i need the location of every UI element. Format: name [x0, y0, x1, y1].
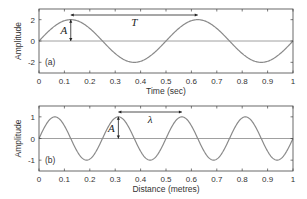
- bottom-x-axis-label: Distance (metres): [132, 184, 199, 194]
- top-amplitude-symbol: A: [59, 24, 67, 36]
- x-tick-label: 1: [291, 77, 296, 86]
- x-tick-label: 0.5: [160, 175, 172, 184]
- arrowhead-icon: [118, 110, 121, 113]
- arrowhead-icon: [195, 13, 198, 16]
- y-tick-label: 2: [31, 16, 36, 25]
- x-tick-label: 0.1: [59, 77, 71, 86]
- arrowhead-icon: [71, 13, 74, 16]
- top-x-axis-label: Time (sec): [146, 86, 186, 96]
- x-tick-label: 0.3: [110, 77, 122, 86]
- x-tick-label: 0.8: [237, 175, 249, 184]
- bottom-y-axis-label: Amplitude: [13, 119, 23, 157]
- x-tick-label: 0.7: [211, 77, 223, 86]
- x-tick-label: 0.6: [186, 77, 198, 86]
- arrowhead-icon: [179, 110, 182, 113]
- y-tick-label: 0: [31, 135, 36, 144]
- x-tick-label: 0: [37, 175, 42, 184]
- x-tick-label: 0.2: [84, 77, 96, 86]
- x-tick-label: 0.3: [110, 175, 122, 184]
- x-tick-label: 0.2: [84, 175, 96, 184]
- top-panel-label: (a): [45, 57, 56, 67]
- x-tick-label: 0.4: [135, 77, 147, 86]
- x-tick-label: 0: [37, 77, 42, 86]
- x-tick-label: 0.9: [262, 175, 274, 184]
- x-tick-label: 0.1: [59, 175, 71, 184]
- x-tick-label: 0.4: [135, 175, 147, 184]
- x-tick-label: 0.6: [186, 175, 198, 184]
- y-tick-label: -2: [28, 58, 36, 67]
- y-tick-label: 1: [31, 113, 36, 122]
- x-tick-label: 0.5: [160, 77, 172, 86]
- y-tick-label: -1: [28, 156, 36, 165]
- bottom-amplitude-symbol: A: [107, 122, 115, 134]
- top-y-axis-label: Amplitude: [13, 22, 23, 60]
- bottom-wavelength-symbol: λ: [147, 113, 153, 125]
- y-tick-label: 0: [31, 37, 36, 46]
- x-tick-label: 0.8: [237, 77, 249, 86]
- x-tick-label: 0.7: [211, 175, 223, 184]
- bottom-panel-label: (b): [45, 155, 56, 165]
- figure: 00.10.20.30.40.50.60.70.80.9120-2Time (s…: [0, 0, 307, 199]
- x-tick-label: 0.9: [262, 77, 274, 86]
- top-period-symbol: T: [131, 16, 138, 28]
- x-tick-label: 1: [291, 175, 296, 184]
